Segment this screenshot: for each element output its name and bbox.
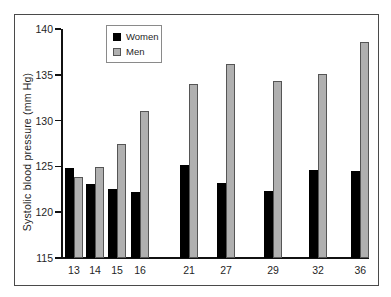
bar-men-14 (95, 167, 104, 258)
bar-men-29 (273, 81, 282, 258)
bar-men-15 (117, 144, 126, 259)
y-tick-mark-135 (55, 74, 61, 76)
x-tick-label-32: 32 (303, 264, 333, 276)
y-tick-label-120: 120 (20, 206, 53, 218)
legend-item-men: Men (113, 45, 157, 58)
y-tick-mark-125 (55, 166, 61, 168)
legend-label-men: Men (126, 46, 144, 57)
bar-men-21 (189, 84, 198, 258)
y-tick-label-135: 135 (20, 69, 53, 81)
y-tick-mark-130 (55, 120, 61, 122)
y-tick-mark-140 (55, 28, 61, 30)
bar-women-14 (86, 184, 95, 258)
y-tick-label-125: 125 (20, 160, 53, 172)
chart-figure: Systolic blood pressure (mm Hg) 11512012… (0, 0, 391, 297)
y-tick-mark-115 (55, 257, 61, 259)
x-tick-label-27: 27 (211, 264, 241, 276)
bar-men-36 (360, 42, 369, 258)
men-swatch-icon (113, 48, 121, 56)
plot-area: 115120125130135140 131415162127293236 (62, 29, 368, 258)
bar-women-32 (309, 170, 318, 258)
bar-men-16 (140, 111, 149, 258)
women-swatch-icon (113, 33, 121, 41)
bar-men-27 (226, 64, 235, 258)
legend-label-women: Women (126, 31, 159, 42)
bar-women-15 (108, 189, 117, 258)
y-tick-label-140: 140 (20, 23, 53, 35)
bar-women-29 (264, 191, 273, 258)
y-tick-mark-120 (55, 211, 61, 213)
bar-women-21 (180, 165, 189, 258)
bar-women-27 (217, 183, 226, 258)
bar-women-16 (131, 192, 140, 258)
bar-women-36 (351, 171, 360, 258)
x-tick-label-36: 36 (345, 264, 375, 276)
legend: Women Men (106, 25, 162, 63)
y-axis-line (61, 29, 63, 259)
x-tick-label-21: 21 (174, 264, 204, 276)
y-tick-label-130: 130 (20, 115, 53, 127)
legend-item-women: Women (113, 30, 157, 43)
bar-men-13 (74, 177, 83, 258)
bar-men-32 (318, 74, 327, 258)
x-tick-label-16: 16 (125, 264, 155, 276)
bar-women-13 (65, 168, 74, 258)
x-tick-label-29: 29 (258, 264, 288, 276)
y-tick-label-115: 115 (20, 252, 53, 264)
